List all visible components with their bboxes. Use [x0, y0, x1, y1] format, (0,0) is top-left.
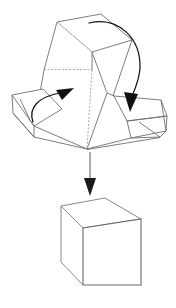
carton-base-rim — [87, 138, 160, 150]
box-front-face — [83, 219, 141, 285]
closed-box-group — [61, 198, 141, 285]
open-carton-group — [12, 14, 167, 150]
box-folding-diagram — [0, 0, 176, 308]
assembly-arrow — [84, 152, 96, 196]
figure-root: Carton folding assembly diagram Open car… — [0, 0, 176, 308]
